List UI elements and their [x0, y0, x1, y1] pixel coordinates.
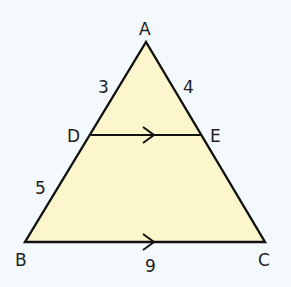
triangle-diagram: A D E B C 3 4 5 9 — [0, 0, 291, 287]
vertex-label-b: B — [15, 250, 27, 270]
vertex-label-e: E — [210, 126, 221, 146]
vertex-label-d: D — [67, 126, 80, 146]
vertex-label-a: A — [139, 19, 151, 39]
length-label-bc: 9 — [145, 256, 156, 276]
length-label-ae: 4 — [183, 77, 194, 97]
length-label-db: 5 — [35, 178, 46, 198]
vertex-label-c: C — [258, 250, 270, 270]
length-label-ad: 3 — [98, 77, 109, 97]
